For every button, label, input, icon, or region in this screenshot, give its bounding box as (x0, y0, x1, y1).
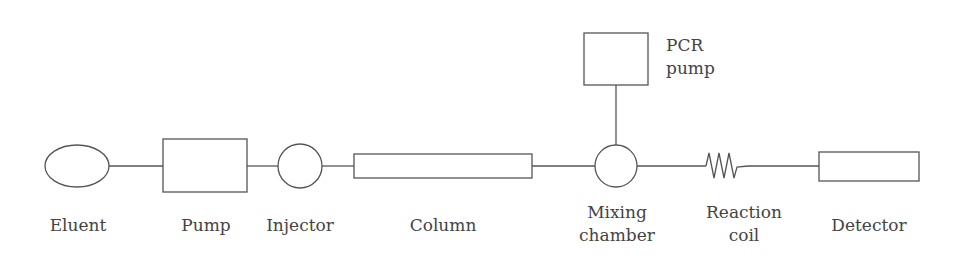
detector-box (819, 152, 919, 181)
label-coil-line1: Reaction (706, 201, 782, 224)
label-detector: Detector (831, 214, 906, 237)
label-column: Column (410, 214, 477, 237)
label-mixing-chamber: Mixing chamber (579, 201, 655, 247)
column-tube (354, 154, 532, 178)
label-injector: Injector (266, 214, 334, 237)
mixing-chamber-circle (595, 145, 637, 187)
eluent-reservoir (45, 145, 109, 187)
hplc-post-column-reaction-diagram (0, 0, 962, 260)
label-mixing-line2: chamber (579, 224, 655, 247)
label-pump: Pump (181, 214, 230, 237)
label-coil-line2: coil (706, 224, 782, 247)
label-reaction-coil: Reaction coil (706, 201, 782, 247)
pump-box (163, 139, 247, 192)
label-pcr-line1: PCR (666, 34, 715, 57)
label-pcr-pump: PCR pump (666, 34, 715, 80)
injector-circle (278, 144, 322, 188)
pcr-pump-box (584, 33, 648, 85)
label-pcr-line2: pump (666, 57, 715, 80)
label-mixing-line1: Mixing (579, 201, 655, 224)
reaction-coil-shape (706, 153, 748, 178)
label-eluent: Eluent (50, 214, 107, 237)
